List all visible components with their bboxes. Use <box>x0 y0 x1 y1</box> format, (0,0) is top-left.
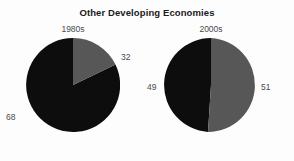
pie-slice-2000s-dark <box>164 38 211 132</box>
pie-panel-2000s: 2000s 49 51 <box>144 0 294 161</box>
pie-value-label-2000s-dark: 49 <box>147 82 156 93</box>
pie-chart-1980s <box>26 38 120 132</box>
pie-chart-figure: Other Developing Economies 1980s 32 68 2… <box>0 0 294 161</box>
pie-panel-1980s: 1980s 32 68 <box>0 0 150 161</box>
pie-slice-2000s-gray <box>208 38 255 132</box>
pie-period-label-1980s: 1980s <box>44 24 102 35</box>
pie-chart-2000s <box>164 38 258 132</box>
pie-period-label-2000s: 2000s <box>182 24 240 35</box>
pie-value-label-1980s-dark: 68 <box>6 112 15 123</box>
pie-value-label-1980s-gray: 32 <box>121 52 130 63</box>
pie-value-label-2000s-gray: 51 <box>261 82 270 93</box>
